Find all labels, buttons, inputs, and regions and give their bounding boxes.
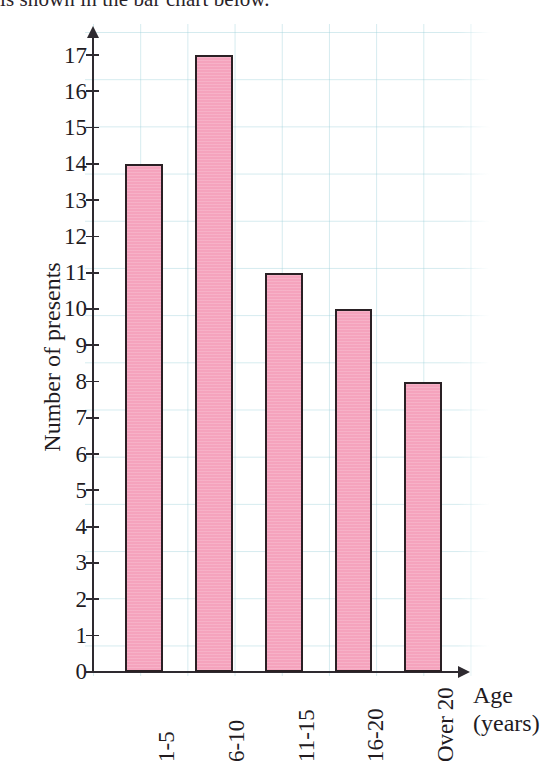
y-axis-arrow-icon (87, 26, 99, 38)
y-axis-line (92, 33, 94, 672)
y-axis-tick-label: 16 (64, 80, 87, 103)
bar-1-5 (125, 164, 163, 672)
y-axis-tick-label: 9 (76, 334, 88, 357)
y-axis-tick (86, 417, 99, 419)
y-axis-tick-label: 8 (76, 370, 88, 393)
y-axis-tick (86, 127, 99, 129)
y-axis-tick-label: 11 (65, 261, 87, 284)
x-axis-tick-label: Over 20 (434, 687, 457, 762)
y-axis-tick-label: 6 (76, 443, 88, 466)
y-axis-tick-label: 14 (64, 152, 87, 175)
y-axis-tick (86, 381, 99, 383)
bar-over-20 (404, 382, 442, 672)
y-axis-tick-label: 5 (76, 479, 88, 502)
y-axis-tick (86, 308, 99, 310)
x-axis-title-line2: (years) (473, 709, 540, 737)
y-axis-tick (86, 562, 99, 564)
y-axis-tick (86, 236, 99, 238)
y-axis-tick-label: 1 (76, 624, 88, 647)
y-axis-tick-label: 2 (76, 588, 88, 611)
y-axis-tick (86, 199, 99, 201)
bar-16-20 (335, 309, 373, 672)
y-axis-tick (86, 635, 99, 637)
y-axis-tick (86, 526, 99, 528)
y-axis-tick (86, 272, 99, 274)
y-axis-title: Number of presents (40, 227, 64, 487)
y-axis-tick-label: 3 (76, 551, 88, 574)
y-axis-tick (86, 344, 99, 346)
y-axis-tick-label: 7 (76, 406, 88, 429)
y-axis-tick (86, 598, 99, 600)
y-axis-tick-label: 12 (64, 225, 87, 248)
x-axis-tick-label: 1-5 (155, 731, 178, 762)
bar-11-15 (265, 273, 303, 672)
x-axis-tick-label: 16-20 (364, 708, 387, 762)
y-axis-tick (86, 54, 99, 56)
y-axis-tick (86, 671, 99, 673)
y-axis-tick-label: 0 (76, 660, 88, 683)
y-axis-tick (86, 453, 99, 455)
x-axis-arrow-icon (458, 666, 470, 678)
x-axis-tick-label: 6-10 (225, 720, 248, 762)
y-axis-tick-label: 15 (64, 116, 87, 139)
y-axis-tick-label: 17 (64, 44, 87, 67)
y-axis-tick (86, 489, 99, 491)
y-axis-tick-label: 13 (64, 189, 87, 212)
y-axis-tick-label: 10 (64, 297, 87, 320)
y-axis-tick (86, 163, 99, 165)
x-axis-tick-label: 11-15 (295, 709, 318, 762)
y-axis-tick (86, 90, 99, 92)
bar-6-10 (195, 55, 233, 672)
x-axis-title-line1: Age (473, 681, 540, 709)
y-axis-tick-label: 4 (76, 515, 88, 538)
x-axis-title: Age (years) (473, 681, 540, 737)
